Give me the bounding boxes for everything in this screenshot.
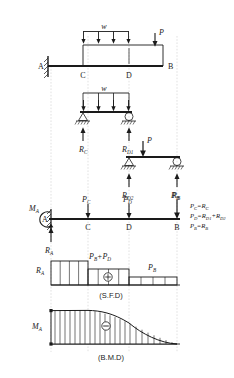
bending-moment-diagram: MA (B.M.D) [31,309,180,362]
sfd-sign-plus [104,273,112,281]
roller-support-B [169,158,184,170]
point-load-P-label: P [158,28,164,37]
sfd-step-1 [51,261,88,285]
equation-1: PC=RC [189,202,210,211]
upper-beam-outline [83,45,163,66]
node-label-B: B [168,62,173,71]
sfd-caption: (S.F.D) [99,291,123,300]
bmd-sign-minus [102,322,110,330]
point-load-P2-label: P [146,136,152,145]
reaction-RD1-label: RD1 [121,145,134,155]
diagram-original-beam: w P [38,22,173,80]
load-PB-label: PB [170,191,180,201]
pin-support-C [75,113,90,125]
udl-arrows [84,32,129,42]
node-label-B2: B [174,223,179,232]
engineering-figure: w P [0,0,234,378]
bmd-label-MA: MA [31,322,43,332]
equations-block: PC=RC PD=RD1+RD2 PB=RB [189,202,226,231]
reaction-RC-label: RC [78,145,88,155]
shear-force-diagram: RA PB+PD PB (S.F.D) [35,252,180,300]
diagram-segment-CD: w [75,84,136,155]
udl-label: w [101,22,107,31]
node-label-A: A [38,62,44,71]
roller-support-D [121,113,136,125]
udl2-arrows [84,100,129,109]
equation-2: PD=RD1+RD2 [189,212,226,221]
fixed-support-A [44,56,48,78]
node-label-C2: C [85,223,90,232]
figure-svg: w P [0,0,234,378]
equation-3: PB=RB [189,222,208,231]
moment-MA-label: MA [28,204,40,214]
sfd-label-PB: PB [147,263,157,273]
sfd-label-PB-PD: PB+PD [88,252,111,262]
node-label-D: D [126,71,132,80]
sfd-step-3 [129,277,177,285]
reaction-RA-label: RA [44,246,54,256]
bmd-caption: (B.M.D) [98,353,124,362]
alignment-guides [51,36,177,352]
sfd-label-RA: RA [35,266,45,276]
node-label-A2: A [42,215,48,224]
pin-support-D2 [121,158,136,170]
load-PC-label: PC [81,195,91,205]
node-label-D2: D [126,223,132,232]
udl2-label: w [101,84,107,93]
node-label-C: C [80,71,85,80]
